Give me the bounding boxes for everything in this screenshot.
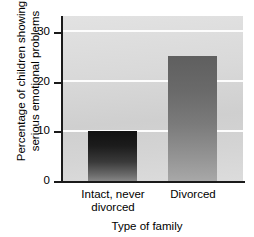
y-axis-line	[61, 16, 63, 182]
y-tick-0	[54, 181, 61, 183]
x-tick-label-divorced: Divorced	[138, 188, 248, 201]
y-tick-label-10: 10	[10, 125, 50, 136]
bar-intact-never-divorced	[88, 131, 137, 181]
gridline-30	[63, 30, 243, 32]
bar-divorced	[168, 56, 217, 181]
x-tick-label-line-1: Divorced	[138, 188, 248, 201]
y-tick-label-0: 0	[10, 175, 50, 186]
x-axis-line	[61, 181, 245, 183]
y-tick-label-20: 20	[10, 76, 50, 87]
plot-area	[63, 16, 243, 181]
y-tick-label-30: 30	[10, 26, 50, 37]
y-tick-30	[54, 32, 61, 34]
x-axis-title: Type of family	[47, 220, 247, 233]
bar-chart-figure: Percentage of children showing serious e…	[0, 0, 254, 237]
x-tick-label-line-2: divorced	[58, 201, 168, 214]
y-tick-20	[54, 82, 61, 84]
y-tick-10	[54, 131, 61, 133]
